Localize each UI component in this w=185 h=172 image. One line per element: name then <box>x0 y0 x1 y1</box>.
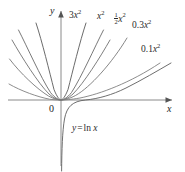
natural-log-curve-group <box>62 63 171 171</box>
origin-label: 0 <box>49 104 54 114</box>
curve-label-03x-squared: 0.3x2 <box>132 21 151 31</box>
plot-canvas <box>0 0 185 172</box>
ln-label-equals: = <box>76 123 83 133</box>
fraction-denominator: 2 <box>114 19 118 26</box>
curve-label-x-squared: x2 <box>97 12 104 22</box>
curve-ln-x <box>62 63 171 171</box>
curve-label-ln-x: y=ln x <box>72 124 98 134</box>
x-axis-label: x <box>167 104 171 114</box>
axes-group <box>8 11 172 166</box>
x-axis-arrowhead <box>166 97 173 103</box>
figure-container: y x 0 3x2 x2 12x2 0.3x2 0.1x2 y=ln x <box>0 0 185 172</box>
curve-label-3x-squared: 3x2 <box>69 11 81 21</box>
exponent-2: 2 <box>122 11 125 18</box>
y-axis-label: y <box>50 6 54 16</box>
exponent-2: 2 <box>101 9 104 16</box>
exponent-2: 2 <box>157 42 160 49</box>
parabola-curves-group <box>9 23 160 100</box>
exponent-2: 2 <box>148 18 151 25</box>
y-axis-arrowhead <box>58 11 64 18</box>
coefficient-03: 0.3 <box>132 20 144 30</box>
curve-label-01x-squared: 0.1x2 <box>141 45 160 55</box>
ln-label-argument: x <box>93 123 97 133</box>
fraction-one-half: 12 <box>114 12 118 27</box>
coefficient-01: 0.1 <box>141 44 153 54</box>
curve-label-half-x-squared: 12x2 <box>114 12 126 27</box>
exponent-2: 2 <box>78 8 81 15</box>
ln-label-function: ln <box>84 123 91 133</box>
